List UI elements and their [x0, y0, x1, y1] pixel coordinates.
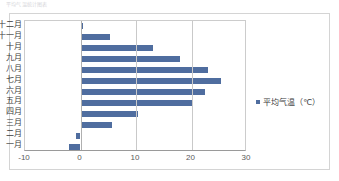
gridline [192, 21, 193, 150]
bar-row [25, 119, 245, 130]
legend-label: 平均气温（℃） [263, 96, 320, 107]
bar[interactable] [81, 56, 181, 62]
bar-row [25, 32, 245, 43]
category-label: 十一月 [0, 31, 22, 42]
category-label: 十二月 [0, 20, 22, 31]
category-label: 七月 [6, 75, 22, 86]
bar-rows [25, 21, 245, 150]
value-tick-label: 10 [131, 153, 140, 162]
bar[interactable] [81, 122, 113, 128]
category-label: 四月 [6, 107, 22, 118]
category-label: 十月 [6, 42, 22, 53]
bar-row [25, 54, 245, 65]
bar-row [25, 87, 245, 98]
value-axis-labels: -100102030 [24, 153, 246, 167]
bar[interactable] [81, 89, 206, 95]
chart-legend[interactable]: 平均气温（℃） [256, 96, 320, 107]
category-label: 八月 [6, 64, 22, 75]
bar-row [25, 65, 245, 76]
legend-square-marker-icon [256, 100, 260, 104]
value-tick-label: -10 [18, 153, 30, 162]
bar[interactable] [69, 144, 80, 150]
bar-row [25, 108, 245, 119]
chart-container[interactable]: 十二月十一月十月九月八月七月六月五月四月三月二月一月 -100102030 平均… [9, 13, 330, 170]
bar-row [25, 130, 245, 141]
value-tick-label: 30 [242, 153, 251, 162]
bar[interactable] [81, 67, 209, 73]
bar[interactable] [81, 78, 221, 84]
bar-row [25, 43, 245, 54]
category-label: 九月 [6, 53, 22, 64]
category-label: 六月 [6, 86, 22, 97]
bar[interactable] [81, 34, 110, 40]
bar[interactable] [81, 45, 153, 51]
bar-row [25, 21, 245, 32]
plot-area [24, 20, 246, 151]
category-label: 一月 [6, 140, 22, 151]
value-tick-label: 20 [186, 153, 195, 162]
gridline [136, 21, 137, 150]
category-label: 五月 [6, 96, 22, 107]
bar[interactable] [81, 111, 138, 117]
bar-row [25, 76, 245, 87]
zero-axis-line [81, 21, 82, 150]
category-label: 二月 [6, 129, 22, 140]
value-tick-label: 0 [77, 153, 81, 162]
bar-row [25, 141, 245, 152]
category-label: 三月 [6, 118, 22, 129]
bar-row [25, 97, 245, 108]
document-top-text: 平均气温统计图表 [6, 1, 126, 8]
